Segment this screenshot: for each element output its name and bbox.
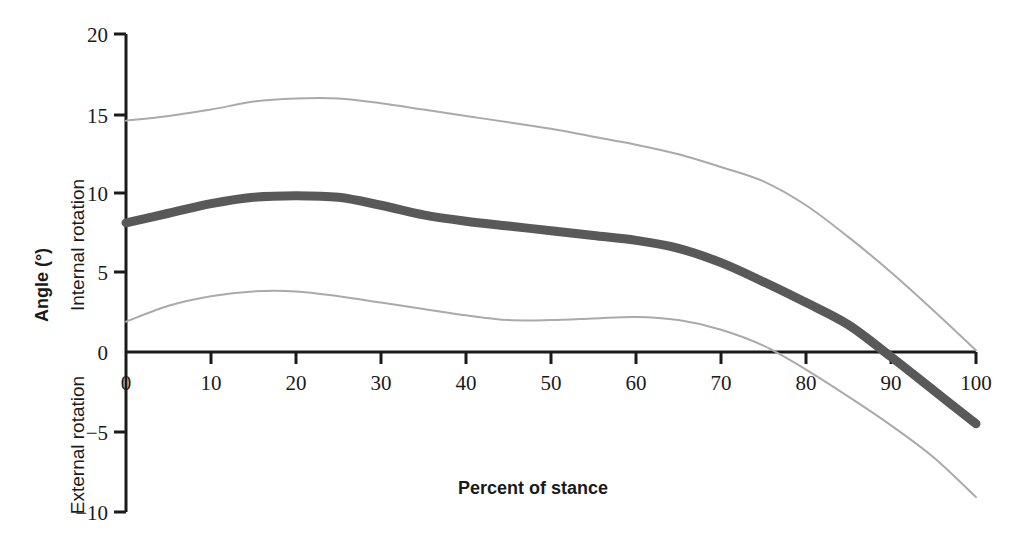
sd-band-curve-0 (126, 98, 976, 351)
data-curves (126, 98, 976, 497)
y-tick-label-5: 5 (98, 261, 109, 285)
x-tick-label-100: 100 (960, 371, 992, 395)
external-rotation-label: External rotation (67, 376, 88, 514)
y-tick-label-15: 15 (87, 104, 108, 128)
y-tick-label-20: 20 (87, 23, 108, 47)
y-tick-label-minus5: −5 (86, 421, 108, 445)
internal-rotation-label: Internal rotation (67, 179, 88, 311)
figure-container: 20 15 10 5 0 −5 −10 Angle (°) Internal r… (0, 0, 1013, 547)
x-axis-ticks (211, 352, 891, 364)
x-tick-label-0: 0 (121, 371, 132, 395)
x-tick-labels: 0 10 20 30 40 50 60 70 80 90 100 (121, 371, 992, 395)
x-tick-label-90: 90 (881, 371, 902, 395)
x-tick-label-40: 40 (456, 371, 477, 395)
x-tick-label-70: 70 (711, 371, 732, 395)
joint-rotation-chart: 20 15 10 5 0 −5 −10 Angle (°) Internal r… (0, 0, 1013, 547)
y-axis-title: Angle (°) (32, 248, 52, 322)
y-tick-label-10: 10 (87, 182, 108, 206)
x-tick-label-10: 10 (201, 371, 222, 395)
y-tick-label-0: 0 (98, 341, 109, 365)
x-tick-label-60: 60 (626, 371, 647, 395)
x-axis-title: Percent of stance (458, 478, 608, 498)
x-tick-label-50: 50 (541, 371, 562, 395)
x-tick-label-20: 20 (286, 371, 307, 395)
x-tick-label-30: 30 (371, 371, 392, 395)
